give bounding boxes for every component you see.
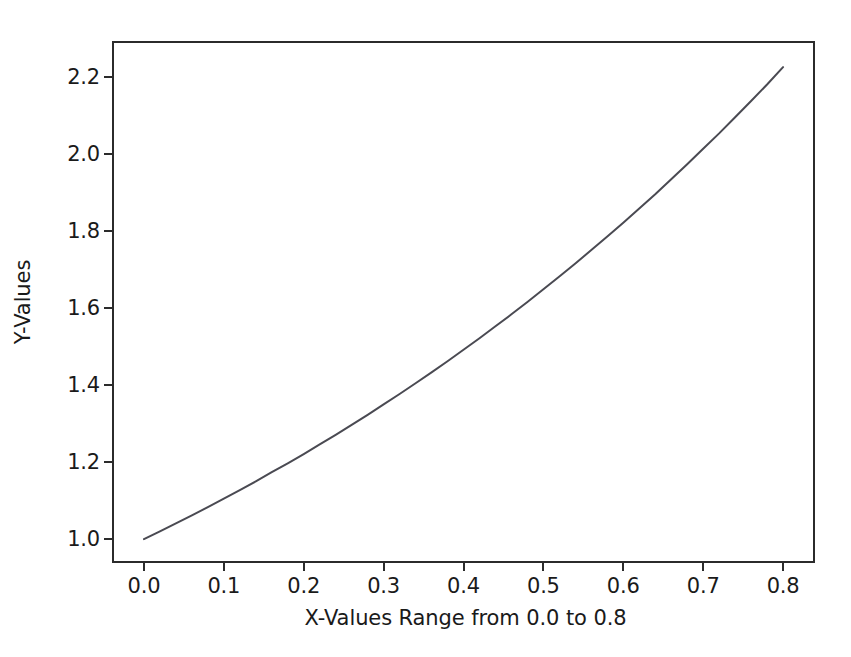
x-tick-mark (303, 563, 305, 571)
x-tick-label: 0.6 (607, 574, 640, 598)
x-tick-mark (383, 563, 385, 571)
y-tick-mark (104, 461, 112, 463)
x-tick-mark (223, 563, 225, 571)
figure-canvas: 0.00.10.20.30.40.50.60.70.8 1.01.21.41.6… (0, 0, 851, 657)
x-tick-label: 0.8 (767, 574, 800, 598)
x-axis-label-text: X-Values Range from 0.0 to 0.8 (305, 606, 627, 630)
y-tick-label: 2.2 (67, 65, 100, 89)
x-tick-label: 0.3 (367, 574, 400, 598)
y-tick-label: 1.4 (67, 373, 100, 397)
x-tick-mark (463, 563, 465, 571)
y-axis-label: Y-Values (11, 260, 35, 345)
x-tick-label: 0.5 (527, 574, 560, 598)
y-tick-mark (104, 307, 112, 309)
y-tick-mark (104, 153, 112, 155)
y-tick-mark (104, 230, 112, 232)
x-tick-label: 0.2 (287, 574, 320, 598)
x-tick-label: 0.1 (207, 574, 240, 598)
x-tick-mark (702, 563, 704, 571)
x-tick-mark (542, 563, 544, 571)
y-tick-label: 1.0 (67, 527, 100, 551)
y-tick-mark (104, 538, 112, 540)
y-tick-label: 1.8 (67, 219, 100, 243)
data-line-layer (112, 41, 815, 563)
x-tick-label: 0.4 (447, 574, 480, 598)
y-tick-label: 1.6 (67, 296, 100, 320)
x-tick-mark (143, 563, 145, 571)
x-tick-mark (622, 563, 624, 571)
y-tick-mark (104, 76, 112, 78)
x-tick-label: 0.0 (128, 574, 161, 598)
y-tick-mark (104, 384, 112, 386)
y-tick-label: 1.2 (67, 450, 100, 474)
x-tick-mark (782, 563, 784, 571)
exp-curve-line (144, 67, 783, 539)
x-axis-label: X-Values Range from 0.0 to 0.8 (0, 606, 851, 630)
y-tick-label: 2.0 (67, 142, 100, 166)
x-tick-label: 0.7 (687, 574, 720, 598)
